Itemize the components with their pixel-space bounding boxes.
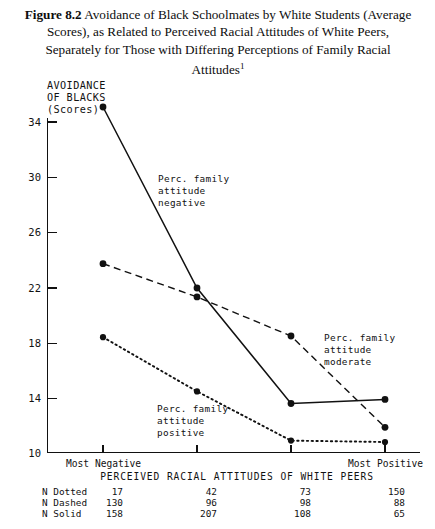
n-table-row-dashed: N Dashed 130 96 98 88 [42, 497, 405, 508]
n-dotted-value-3: 73 [300, 486, 311, 497]
annotation-positive: Perc. family attitude positive [157, 403, 228, 438]
n-table-row-solid: N Solid 158 207 108 65 [42, 508, 405, 519]
y-tick-label-34: 34 [28, 116, 41, 128]
n-dashed-value-4: 88 [394, 497, 406, 508]
data-point-moderate-2 [194, 294, 201, 301]
annotation-positive-line-2: attitude [157, 415, 205, 426]
data-point-negative-2 [194, 285, 201, 292]
n-table-row-dotted: N Dotted 17 42 73 150 [42, 486, 405, 497]
y-tick-label-22: 22 [28, 282, 41, 294]
x-axis-ticks [103, 445, 385, 453]
n-solid-value-3: 108 [294, 508, 311, 519]
data-point-moderate-4 [382, 424, 389, 431]
y-tick-label-18: 18 [28, 337, 41, 349]
y-axis-title: AVOIDANCE OF BLACKS (Scores) [47, 80, 106, 115]
x-label-most-positive: Most Positive [348, 458, 423, 469]
annotation-negative: Perc. family attitude negative [158, 173, 229, 208]
y-tick-label-10: 10 [28, 447, 41, 459]
annotation-negative-line-2: attitude [158, 185, 206, 196]
chart-figure: AVOIDANCE OF BLACKS (Scores) 34 30 26 22… [0, 0, 435, 529]
data-point-positive-4 [382, 439, 388, 445]
y-axis-title-line-1: AVOIDANCE [47, 80, 106, 91]
annotation-negative-line-1: Perc. family [158, 173, 229, 184]
x-label-most-negative: Most Negative [66, 458, 141, 469]
n-dashed-value-1: 130 [106, 497, 123, 508]
y-tick-label-30: 30 [28, 171, 41, 183]
y-axis-tick-labels: 34 30 26 22 18 14 10 [28, 116, 41, 459]
n-dashed-value-2: 96 [206, 497, 218, 508]
x-axis-title: PERCEIVED RACIAL ATTITUDES OF WHITE PEER… [100, 471, 374, 482]
y-tick-label-26: 26 [28, 226, 41, 238]
data-point-negative-1 [100, 104, 107, 111]
data-point-positive-1 [100, 334, 106, 340]
n-dashed-value-3: 98 [300, 497, 312, 508]
annotation-negative-line-3: negative [158, 197, 206, 208]
n-dotted-value-1: 17 [112, 486, 123, 497]
data-point-negative-3 [288, 400, 295, 407]
data-point-moderate-1 [100, 260, 107, 267]
n-solid-value-4: 65 [394, 508, 405, 519]
annotation-moderate-line-3: moderate [324, 356, 372, 367]
y-axis-ticks [48, 122, 58, 399]
n-solid-value-2: 207 [200, 508, 217, 519]
annotation-moderate-line-2: attitude [324, 344, 372, 355]
data-point-positive-3 [288, 438, 294, 444]
n-solid-value-1: 158 [106, 508, 123, 519]
n-table-row-label-dotted: N Dotted [42, 486, 87, 497]
n-table-row-label-solid: N Solid [42, 508, 82, 519]
n-table-row-label-dashed: N Dashed [42, 497, 87, 508]
n-dotted-value-4: 150 [388, 486, 405, 497]
annotation-moderate: Perc. family attitude moderate [324, 332, 395, 367]
data-point-positive-2 [194, 388, 200, 394]
annotation-moderate-line-1: Perc. family [324, 332, 395, 343]
n-table: N Dotted 17 42 73 150 N Dashed 130 96 98… [42, 486, 405, 519]
data-point-negative-4 [382, 396, 389, 403]
data-point-moderate-3 [288, 333, 295, 340]
chart-axes [48, 118, 421, 453]
y-axis-title-line-2: OF BLACKS [47, 92, 106, 103]
annotation-positive-line-3: positive [157, 427, 205, 438]
y-axis-title-line-3: (Scores) [47, 104, 99, 115]
y-tick-label-14: 14 [28, 392, 41, 404]
n-dotted-value-2: 42 [206, 486, 217, 497]
annotation-positive-line-1: Perc. family [157, 403, 228, 414]
